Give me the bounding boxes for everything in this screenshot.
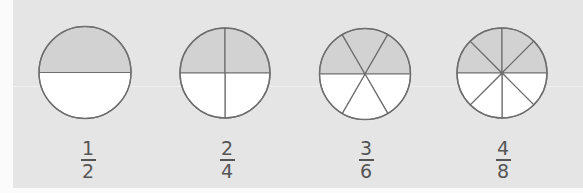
- fraction-label-two-quarters: 2 4: [212, 139, 242, 181]
- numerator: 3: [360, 139, 372, 158]
- shaded-sector: [39, 27, 131, 73]
- denominator: 8: [497, 162, 509, 181]
- fraction-label-four-eighths: 4 8: [488, 139, 518, 181]
- numerator: 4: [497, 139, 509, 158]
- denominator: 6: [360, 162, 372, 181]
- circle-four-eighths: [457, 28, 547, 118]
- unshaded-sector: [39, 73, 131, 119]
- fraction-label-three-sixths: 3 6: [351, 139, 381, 181]
- denominator: 2: [82, 162, 94, 181]
- circle-two-quarters: [180, 28, 270, 118]
- circle-three-sixths: [320, 29, 411, 120]
- numerator: 1: [82, 139, 94, 158]
- circle-one-half: [39, 27, 131, 119]
- numerator: 2: [221, 139, 233, 158]
- denominator: 4: [221, 162, 233, 181]
- fraction-label-one-half: 1 2: [73, 139, 103, 181]
